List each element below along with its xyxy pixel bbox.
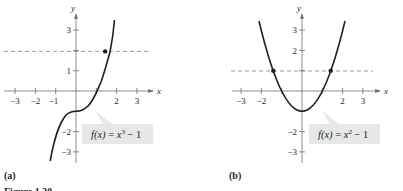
x-axis-label: x [383, 86, 388, 96]
y-tick-label: −3 [61, 147, 71, 157]
y-axis-label: y [296, 3, 301, 13]
y-tick-label: 2 [293, 46, 298, 56]
label-pointer [322, 111, 339, 124]
intersection-point [329, 69, 333, 73]
x-tick-label: −2 [257, 96, 267, 106]
intersection-point [271, 69, 275, 73]
figure-caption: Figure 1.30 [4, 186, 52, 191]
y-tick-label: −2 [61, 127, 71, 137]
y-axis-label: y [70, 3, 75, 13]
panel-label: (b) [229, 170, 241, 182]
panel-a: −3 −2 −1 2 3 3 1 −2 −3 x y f(x) = x3 − 1… [4, 3, 161, 182]
y-tick-label: −3 [287, 147, 297, 157]
panel-label: (a) [4, 170, 16, 182]
x-tick-label: −1 [49, 96, 59, 106]
x-axis-label: x [156, 86, 161, 96]
equation-label: f(x) = x3 − 1 [91, 128, 141, 141]
x-tick-label: −3 [236, 96, 246, 106]
y-tick-label: 3 [67, 25, 72, 35]
y-tick-label: 1 [67, 66, 72, 76]
x-tick-label: 2 [340, 96, 345, 106]
x-tick-label: −2 [31, 96, 41, 106]
label-pointer [95, 111, 112, 124]
y-tick-label: −2 [287, 127, 297, 137]
x-tick-label: 3 [135, 96, 140, 106]
figure-canvas: −3 −2 −1 2 3 3 1 −2 −3 x y f(x) = x3 − 1… [0, 0, 403, 191]
y-tick-label: 3 [293, 25, 298, 35]
x-tick-label: 2 [114, 96, 119, 106]
panel-b: −3 −2 2 3 3 2 −2 −3 x y f(x) = x2 − 1 (b… [229, 3, 388, 182]
x-tick-label: 3 [361, 96, 366, 106]
equation-label: f(x) = x2 − 1 [318, 128, 368, 141]
x-tick-label: −3 [10, 96, 20, 106]
intersection-point [103, 49, 107, 53]
